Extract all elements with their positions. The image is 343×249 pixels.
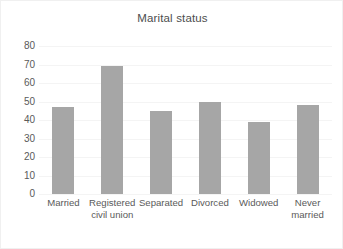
bar[interactable] bbox=[150, 111, 172, 194]
x-tick-label: Separated bbox=[137, 197, 186, 209]
bar[interactable] bbox=[101, 66, 123, 194]
bar[interactable] bbox=[297, 105, 319, 194]
bar-slot bbox=[137, 46, 186, 194]
y-tick-label: 80 bbox=[24, 41, 35, 51]
y-tick-label: 60 bbox=[24, 78, 35, 88]
y-tick-label: 70 bbox=[24, 60, 35, 70]
bar-slot bbox=[39, 46, 88, 194]
gridline bbox=[39, 194, 332, 195]
x-axis: MarriedRegistered civil unionSeparatedDi… bbox=[39, 197, 332, 241]
x-tick-label: Married bbox=[39, 197, 88, 209]
y-tick-label: 50 bbox=[24, 97, 35, 107]
y-tick-label: 40 bbox=[24, 115, 35, 125]
x-tick-label: Divorced bbox=[186, 197, 235, 209]
x-tick-label: Widowed bbox=[234, 197, 283, 209]
bar-slot bbox=[283, 46, 332, 194]
chart-title: Marital status bbox=[1, 12, 343, 24]
y-tick-label: 0 bbox=[29, 189, 35, 199]
bar-slot bbox=[88, 46, 137, 194]
y-tick-label: 10 bbox=[24, 171, 35, 181]
bar-slot bbox=[234, 46, 283, 194]
bar[interactable] bbox=[248, 122, 270, 194]
y-tick-label: 30 bbox=[24, 134, 35, 144]
bar[interactable] bbox=[199, 102, 221, 195]
bar[interactable] bbox=[52, 107, 74, 194]
bars-layer bbox=[39, 46, 332, 194]
y-axis: 01020304050607080 bbox=[7, 46, 35, 194]
bar-slot bbox=[186, 46, 235, 194]
bar-chart: Marital status 01020304050607080 Married… bbox=[0, 0, 343, 249]
x-tick-label: Registered civil union bbox=[88, 197, 137, 220]
y-tick-label: 20 bbox=[24, 152, 35, 162]
x-tick-label: Never married bbox=[283, 197, 332, 220]
